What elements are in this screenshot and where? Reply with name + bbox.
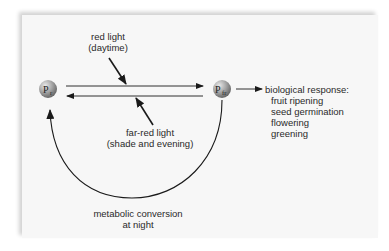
daytime-text: (daytime) (78, 42, 138, 53)
node-pfr-label: P (215, 84, 221, 95)
node-pr-label: P (43, 84, 49, 95)
red-light-pointer-arrow (109, 58, 126, 84)
response-item: seed germination (271, 106, 349, 117)
red-light-text: red light (78, 31, 138, 42)
metabolic-conversion-text: metabolic conversion (85, 208, 191, 219)
node-pr: P r (39, 80, 57, 98)
response-item: fruit ripening (271, 95, 349, 106)
biological-response-list: biological response: fruit ripening seed… (265, 84, 349, 139)
far-red-light-text: far-red light (100, 127, 200, 138)
shade-evening-text: (shade and evening) (100, 138, 200, 149)
response-item: flowering (271, 117, 349, 128)
biological-response-title: biological response: (265, 84, 349, 95)
node-pfr: P fr (213, 80, 231, 98)
response-item: greening (271, 128, 349, 139)
metabolic-conversion-label: metabolic conversion at night (85, 208, 191, 230)
metabolic-conversion-arrow (50, 100, 222, 198)
far-red-light-pointer-arrow (136, 98, 153, 125)
at-night-text: at night (85, 219, 191, 230)
red-light-label: red light (daytime) (78, 31, 138, 53)
far-red-light-label: far-red light (shade and evening) (100, 127, 200, 149)
